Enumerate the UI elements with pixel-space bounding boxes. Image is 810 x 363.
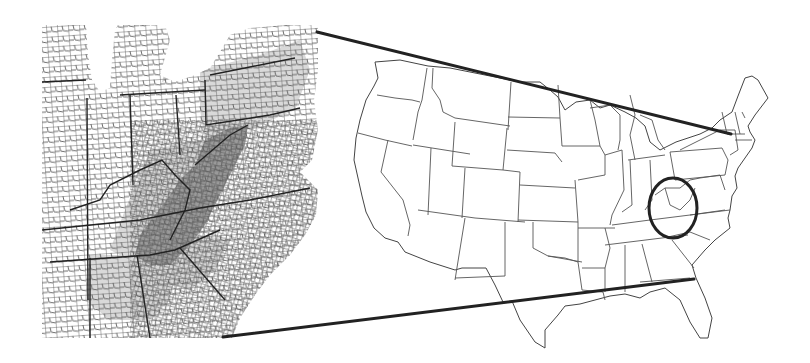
inset-map xyxy=(42,25,322,340)
us-outline xyxy=(354,60,768,348)
map-canvas xyxy=(0,0,810,363)
connector-bottom xyxy=(223,279,694,337)
map-figure: County-level inset map of the central Ap… xyxy=(0,0,810,363)
county-boundaries-east xyxy=(130,120,320,340)
us-map xyxy=(354,60,768,348)
